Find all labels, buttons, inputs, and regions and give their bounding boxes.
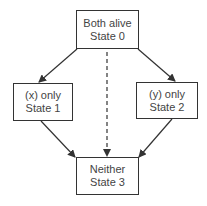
node-state-2: (y) only State 2 — [136, 82, 198, 119]
node-state-2-line2: State 2 — [150, 101, 185, 114]
state-diagram: Both alive State 0 (x) only State 1 (y) … — [0, 0, 207, 206]
node-state-1: (x) only State 1 — [13, 83, 73, 121]
node-state-3: Neither State 3 — [76, 157, 139, 195]
node-state-3-line1: Neither — [90, 163, 125, 176]
node-state-1-line2: State 1 — [26, 102, 61, 115]
node-state-3-line2: State 3 — [90, 176, 125, 189]
arrow-state2-to-state3 — [139, 119, 172, 157]
node-state-0-line1: Both alive — [83, 17, 131, 30]
node-state-0: Both alive State 0 — [76, 10, 139, 49]
node-state-0-line2: State 0 — [90, 30, 125, 43]
node-state-1-line1: (x) only — [25, 89, 61, 102]
arrow-state1-to-state3 — [41, 121, 75, 157]
arrow-state0-to-state1 — [39, 49, 77, 82]
arrow-state0-to-state2 — [138, 49, 175, 81]
node-state-2-line1: (y) only — [149, 88, 185, 101]
